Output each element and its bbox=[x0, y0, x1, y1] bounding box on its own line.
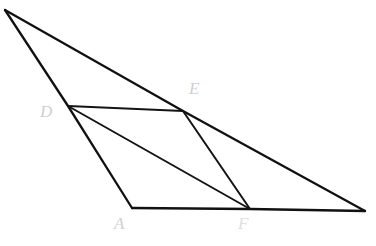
diagonal-D-F bbox=[68, 106, 250, 209]
vertex-label-F: F bbox=[238, 215, 248, 232]
segment-B-D-A bbox=[5, 10, 132, 208]
vertex-label-A: A bbox=[114, 215, 124, 232]
segment-E-F bbox=[183, 111, 250, 209]
vertex-label-D: D bbox=[40, 103, 52, 120]
geometry-canvas bbox=[0, 0, 376, 246]
vertex-label-E: E bbox=[189, 80, 199, 97]
geometry-figure: D E A F bbox=[0, 0, 376, 246]
segment-D-E bbox=[68, 106, 183, 111]
segment-B-E-C bbox=[5, 10, 365, 211]
